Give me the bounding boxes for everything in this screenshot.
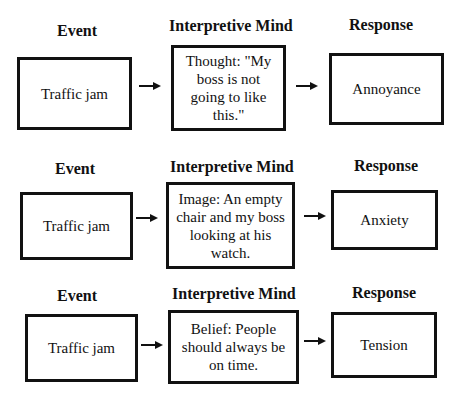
row3-mind-box: Belief: People should always be on time. <box>168 310 299 384</box>
row2-response-header: Response <box>354 157 418 175</box>
row3-response-text: Tension <box>360 336 407 354</box>
row2-mind-header: Interpretive Mind <box>170 158 294 176</box>
arrow-head-icon <box>153 82 161 90</box>
row2-arrow-1 <box>136 213 158 223</box>
row3-event-box: Traffic jam <box>25 314 138 382</box>
row3-response-header: Response <box>352 284 416 302</box>
row1-arrow-1 <box>139 81 161 91</box>
row1-event-header: Event <box>57 22 97 40</box>
row2-arrow-2 <box>304 211 326 221</box>
arrow-head-icon <box>318 212 326 220</box>
row3-event-header: Event <box>57 287 97 305</box>
row3-arrow-1 <box>141 340 163 350</box>
row1-response-header: Response <box>349 16 413 34</box>
row2-response-box: Anxiety <box>331 190 438 250</box>
row1-mind-text: Thought: "My boss is not going to like t… <box>178 52 279 124</box>
arrow-head-icon <box>155 341 163 349</box>
arrow-head-icon <box>310 82 318 90</box>
row2-mind-box: Image: An empty chair and my boss lookin… <box>166 182 295 269</box>
row2-mind-text: Image: An empty chair and my boss lookin… <box>173 190 288 262</box>
row1-event-box: Traffic jam <box>17 57 132 130</box>
row3-arrow-2 <box>304 336 326 346</box>
row3-event-text: Traffic jam <box>48 339 115 357</box>
row1-response-box: Annoyance <box>329 53 444 125</box>
row2-event-box: Traffic jam <box>20 192 133 260</box>
arrow-head-icon <box>150 214 158 222</box>
row1-response-text: Annoyance <box>352 80 420 98</box>
row1-event-text: Traffic jam <box>41 85 108 103</box>
row2-response-text: Anxiety <box>360 211 408 229</box>
arrow-head-icon <box>318 337 326 345</box>
row3-response-box: Tension <box>331 312 437 378</box>
row1-arrow-2 <box>296 81 318 91</box>
row2-event-text: Traffic jam <box>43 217 110 235</box>
row3-mind-text: Belief: People should always be on time. <box>175 320 292 374</box>
row1-mind-header: Interpretive Mind <box>169 17 293 35</box>
row1-mind-box: Thought: "My boss is not going to like t… <box>171 45 286 131</box>
row2-event-header: Event <box>55 160 95 178</box>
row3-mind-header: Interpretive Mind <box>172 285 296 303</box>
